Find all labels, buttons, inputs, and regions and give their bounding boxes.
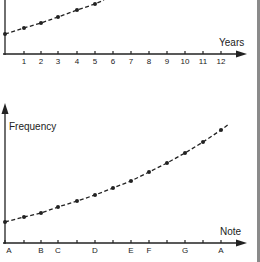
data-point bbox=[56, 15, 60, 19]
x-tick-label: 4 bbox=[75, 57, 80, 66]
top-data-points bbox=[3, 2, 97, 36]
note-tick-label: C bbox=[55, 246, 61, 255]
bottom-x-label: Note bbox=[220, 226, 242, 237]
data-point bbox=[219, 128, 223, 132]
data-point bbox=[183, 151, 187, 155]
data-point bbox=[147, 170, 151, 174]
note-tick-label: F bbox=[147, 246, 152, 255]
right-border bbox=[257, 0, 260, 262]
data-point bbox=[3, 32, 7, 36]
data-point bbox=[111, 186, 115, 190]
data-point bbox=[22, 26, 26, 30]
data-point bbox=[129, 179, 133, 183]
bottom-data-points bbox=[3, 128, 223, 224]
x-tick-label: 3 bbox=[56, 57, 61, 66]
x-tick-label: 11 bbox=[199, 57, 208, 66]
data-point bbox=[22, 215, 26, 219]
x-tick-label: 2 bbox=[39, 57, 44, 66]
data-point bbox=[165, 161, 169, 165]
bottom-x-arrow-icon bbox=[236, 240, 247, 247]
bottom-x-ticks: ABCDEFGA bbox=[5, 240, 224, 255]
x-tick-label: 10 bbox=[181, 57, 190, 66]
note-tick-label: D bbox=[92, 246, 98, 255]
note-tick-label: A bbox=[218, 246, 224, 255]
note-tick-label: B bbox=[38, 246, 43, 255]
note-tick-label: E bbox=[128, 246, 133, 255]
data-point bbox=[93, 2, 97, 6]
x-tick-label: 1 bbox=[22, 57, 27, 66]
x-tick-label: 7 bbox=[129, 57, 134, 66]
x-tick-label: 9 bbox=[165, 57, 170, 66]
top-x-arrow-icon bbox=[236, 51, 247, 58]
x-tick-label: 12 bbox=[217, 57, 226, 66]
top-x-label: Years bbox=[219, 37, 244, 48]
data-point bbox=[75, 8, 79, 12]
x-tick-label: 6 bbox=[111, 57, 116, 66]
data-point bbox=[93, 193, 97, 197]
data-point bbox=[39, 21, 43, 25]
bottom-dashed-curve bbox=[5, 124, 229, 222]
data-point bbox=[3, 220, 7, 224]
bottom-chart: Frequency Note ABCDEFGA bbox=[2, 103, 248, 255]
data-point bbox=[39, 211, 43, 215]
bottom-y-arrow-icon bbox=[2, 103, 9, 114]
top-x-ticks: 123456789101112 bbox=[22, 51, 226, 66]
x-tick-label: 5 bbox=[93, 57, 98, 66]
note-tick-label: G bbox=[182, 246, 188, 255]
data-point bbox=[56, 205, 60, 209]
data-point bbox=[75, 199, 79, 203]
data-point bbox=[201, 140, 205, 144]
top-dashed-curve bbox=[5, 0, 104, 34]
chart-canvas: Years 123456789101112 Frequency Note ABC… bbox=[0, 0, 260, 262]
top-chart: Years 123456789101112 bbox=[3, 0, 247, 66]
x-tick-label: 8 bbox=[147, 57, 152, 66]
bottom-y-label: Frequency bbox=[9, 121, 56, 132]
note-tick-label: A bbox=[6, 246, 12, 255]
